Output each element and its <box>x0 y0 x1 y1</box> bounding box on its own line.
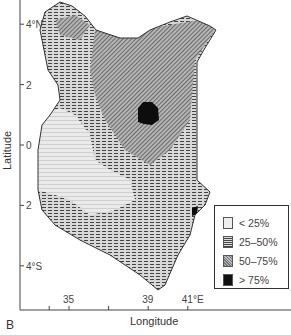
y-tick-label: 0 <box>26 140 32 151</box>
legend-item-lt-25: < 25% <box>223 216 269 230</box>
y-axis-title: Latitude <box>1 131 13 170</box>
legend-label: < 25% <box>239 217 269 229</box>
legend-item-50-75: 50–75% <box>223 254 278 268</box>
legend-item-25-50: 25–50% <box>223 235 278 249</box>
legend-label: 50–75% <box>239 255 278 267</box>
legend: < 25% 25–50% 50–75% > 75% <box>214 205 289 289</box>
legend-swatch-50-75 <box>223 255 233 267</box>
x-tick-label: 39 <box>142 294 154 305</box>
panel-label: B <box>6 318 14 332</box>
legend-label: > 75% <box>239 274 269 286</box>
y-tick-label: 2 <box>26 200 32 211</box>
y-tick-label: 4°S <box>26 261 43 272</box>
legend-item-gt-75: > 75% <box>223 273 269 287</box>
x-tick-label: 35 <box>63 294 75 305</box>
x-axis-title: Longitude <box>130 315 178 327</box>
legend-swatch-gt-75 <box>223 274 233 286</box>
legend-label: 25–50% <box>239 236 278 248</box>
x-tick-label: 41°E <box>182 294 204 305</box>
y-tick-label: 2 <box>26 80 32 91</box>
legend-swatch-lt-25 <box>223 217 233 229</box>
legend-swatch-25-50 <box>223 236 233 248</box>
